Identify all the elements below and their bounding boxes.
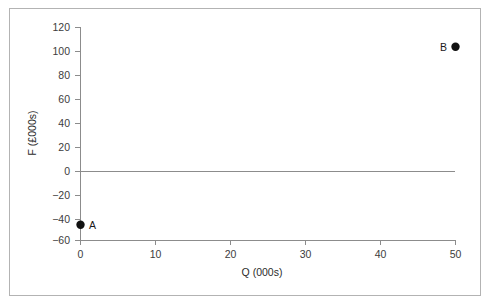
y-tick-label-120: 120 bbox=[52, 21, 70, 33]
data-point-b[interactable] bbox=[451, 43, 459, 51]
y-axis-tick-labels: 120 100 80 60 40 20 0 −20 −40 −60 bbox=[52, 21, 70, 246]
x-tick-label-20: 20 bbox=[225, 248, 237, 260]
data-point-b-label: B bbox=[440, 41, 447, 53]
y-axis-title: F (£000s) bbox=[26, 111, 38, 156]
x-axis-title: Q (000s) bbox=[242, 266, 283, 278]
y-tick-label-neg40: −40 bbox=[52, 213, 70, 225]
x-tick-label-30: 30 bbox=[300, 248, 312, 260]
data-points: A B bbox=[76, 41, 459, 231]
y-tick-label-neg20: −20 bbox=[52, 189, 70, 201]
y-tick-label-40: 40 bbox=[58, 117, 70, 129]
y-axis-ticks bbox=[75, 28, 80, 241]
x-tick-label-50: 50 bbox=[450, 248, 462, 260]
y-tick-label-80: 80 bbox=[58, 69, 70, 81]
y-tick-label-neg60: −60 bbox=[52, 234, 70, 246]
y-tick-label-0: 0 bbox=[64, 165, 70, 177]
y-tick-label-100: 100 bbox=[52, 45, 70, 57]
x-tick-label-0: 0 bbox=[78, 248, 84, 260]
x-tick-label-10: 10 bbox=[150, 248, 162, 260]
y-tick-label-60: 60 bbox=[58, 93, 70, 105]
y-tick-label-20: 20 bbox=[58, 141, 70, 153]
data-point-a[interactable] bbox=[76, 221, 84, 229]
x-axis-tick-labels: 0 10 20 30 40 50 bbox=[78, 248, 462, 260]
chart-figure: 120 100 80 60 40 20 0 −20 −40 −60 0 10 2… bbox=[0, 0, 492, 306]
scatter-plot: 120 100 80 60 40 20 0 −20 −40 −60 0 10 2… bbox=[0, 0, 492, 306]
data-point-a-label: A bbox=[89, 219, 96, 231]
x-tick-label-40: 40 bbox=[375, 248, 387, 260]
